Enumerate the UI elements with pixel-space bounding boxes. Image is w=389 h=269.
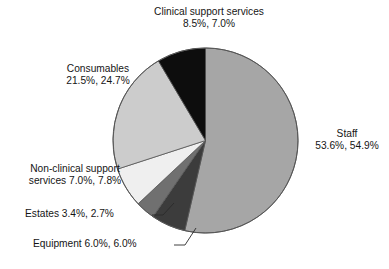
slice-label-clinical-support-services: Clinical support services 8.5%, 7.0% [107, 6, 311, 31]
slice-label-clinical-name: Clinical support services [107, 6, 311, 18]
slice-label-nonclinical-values: services 7.0%, 7.8% [8, 175, 142, 187]
slice-label-equipment: Equipment 6.0%, 6.0% [33, 238, 173, 250]
slice-label-equipment-text: Equipment 6.0%, 6.0% [33, 238, 173, 250]
slice-label-nonclinical-name: Non-clinical support [8, 163, 142, 175]
slice-label-consumables-values: 21.5%, 24.7% [24, 75, 172, 87]
slice-label-estates-text: Estates 3.4%, 2.7% [25, 208, 151, 220]
slice-label-staff-values: 53.6%, 54.9% [305, 140, 389, 152]
slice-label-clinical-values: 8.5%, 7.0% [107, 18, 311, 30]
slice-label-consumables-name: Consumables [24, 63, 172, 75]
slice-label-estates: Estates 3.4%, 2.7% [25, 208, 151, 220]
slice-label-staff-name: Staff [305, 128, 389, 140]
pie-chart-figure: Clinical support services 8.5%, 7.0% Con… [0, 0, 389, 269]
slice-label-consumables: Consumables 21.5%, 24.7% [24, 63, 172, 88]
slice-label-non-clinical-support-services: Non-clinical support services 7.0%, 7.8% [8, 163, 142, 188]
slice-label-staff: Staff 53.6%, 54.9% [305, 128, 389, 153]
